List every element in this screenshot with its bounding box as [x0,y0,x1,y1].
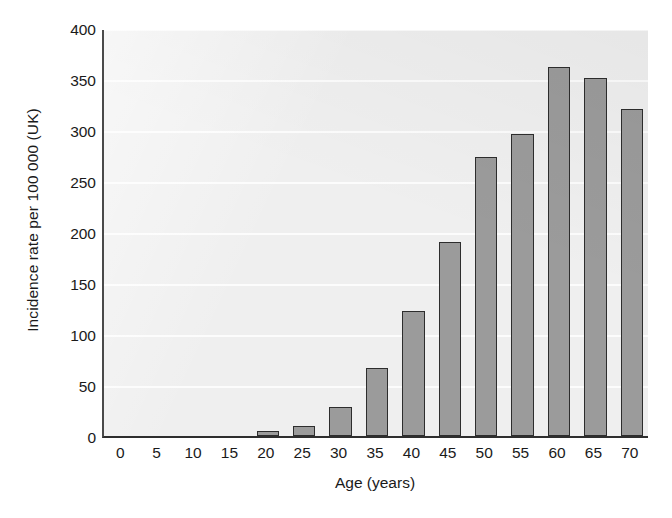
y-tick-label-200: 200 [40,226,96,242]
x-axis-title: Age (years) [102,474,648,492]
incidence-rate-bar-chart: Incidence rate per 100 000 (UK) 05010015… [0,0,672,518]
bar-age-25 [293,426,316,436]
y-tick-label-300: 300 [40,124,96,140]
bar-age-65 [584,78,607,436]
bar-age-45 [439,242,462,436]
bar-age-40 [402,311,425,436]
plot-area [102,30,648,438]
bars-layer [104,30,648,436]
bar-age-20 [257,431,280,436]
x-axis-tick-labels: 0510152025303540455055606570 [102,444,648,468]
bar-age-35 [366,368,389,436]
y-tick-label-400: 400 [40,22,96,38]
bar-age-55 [511,134,534,436]
y-axis-tick-labels: 050100150200250300350400 [40,30,96,438]
y-tick-label-0: 0 [40,430,96,446]
y-tick-label-50: 50 [40,379,96,395]
bar-age-70 [621,109,644,436]
y-tick-label-350: 350 [40,73,96,89]
bar-age-50 [475,157,498,436]
bar-age-30 [329,407,352,436]
x-tick-label-70: 70 [608,444,652,462]
bar-age-60 [548,67,571,436]
y-tick-label-100: 100 [40,328,96,344]
y-tick-label-150: 150 [40,277,96,293]
y-tick-label-250: 250 [40,175,96,191]
